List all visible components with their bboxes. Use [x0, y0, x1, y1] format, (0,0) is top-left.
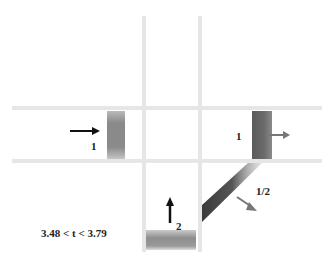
arrows-overlay: [0, 0, 332, 262]
left-packet-label: 1: [91, 141, 97, 152]
diagonal-packet-label: 1/2: [256, 186, 270, 197]
arrow-right-gray-icon: [268, 131, 290, 139]
time-range-label: 3.48 < t < 3.79: [41, 228, 107, 239]
right-packet-label: 1: [236, 131, 242, 142]
diagonal-packet: [202, 163, 262, 222]
arrow-right-icon: [70, 127, 100, 135]
arrow-down-right-icon: [237, 197, 257, 211]
bottom-packet-label: 2: [176, 221, 182, 232]
arrow-up-icon: [166, 197, 174, 223]
